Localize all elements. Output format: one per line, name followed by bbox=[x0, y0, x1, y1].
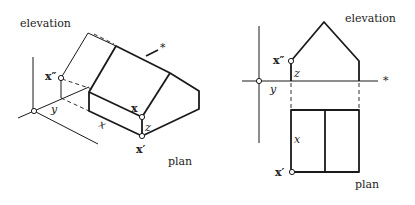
ridge-leader bbox=[146, 50, 158, 56]
left-projector-y bbox=[61, 98, 89, 111]
left-x-double-prime-point bbox=[58, 75, 63, 80]
left-x-prime-label: x′ bbox=[136, 143, 146, 156]
left-y-axis-label: y bbox=[50, 103, 58, 116]
left-x-axis bbox=[34, 111, 98, 144]
right-z-axis-label: z bbox=[293, 67, 300, 80]
left-x-double-prime-label: x″ bbox=[45, 70, 57, 83]
house-gable-edge bbox=[142, 73, 170, 117]
left-x-prime-point bbox=[139, 133, 144, 138]
right-elevation-label: elevation bbox=[345, 12, 396, 25]
right-y-axis-label: y bbox=[269, 83, 277, 96]
right-x-double-prime-label: x″ bbox=[273, 54, 285, 67]
right-x-axis-label: x bbox=[294, 133, 301, 146]
right-axis-marker: * bbox=[383, 74, 389, 87]
left-x-point bbox=[139, 114, 144, 119]
left-origin-point bbox=[31, 108, 36, 113]
left-elevation-label: elevation bbox=[20, 17, 71, 30]
right-orthographic-figure: elevation plan x″ x′ z y x * bbox=[242, 12, 396, 191]
left-x-axis-label: x bbox=[97, 117, 109, 132]
projection-diagram: elevation plan x″ x x′ y x z * elevation… bbox=[0, 0, 415, 205]
left-projector-top bbox=[94, 34, 114, 44]
right-x-prime-point bbox=[289, 169, 294, 174]
right-plan-label: plan bbox=[355, 178, 379, 191]
left-x-label: x bbox=[131, 102, 138, 115]
right-x-double-prime-point bbox=[288, 58, 293, 63]
right-origin-point bbox=[256, 78, 261, 83]
right-x-prime-label: x′ bbox=[275, 166, 285, 179]
left-plan-label: plan bbox=[168, 155, 192, 168]
left-z-axis-label: z bbox=[144, 121, 151, 134]
left-ridge-marker: * bbox=[160, 41, 166, 54]
left-elevation-outline bbox=[61, 33, 116, 78]
elevation-gable-outline bbox=[291, 22, 359, 81]
left-oblique-figure: elevation plan x″ x x′ y x z * bbox=[18, 17, 199, 168]
